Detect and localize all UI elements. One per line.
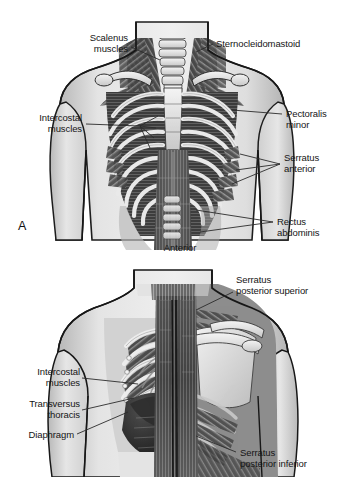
label-scalenus-muscles: Scalenus muscles bbox=[34, 32, 128, 54]
label-sternocleidomastoid: Sternocleidomastoid bbox=[216, 38, 344, 49]
label-intercostal-muscles-anterior: Intercostal muscles bbox=[4, 112, 82, 134]
panel-letter-a: A bbox=[18, 219, 26, 233]
label-serratus-posterior-superior: Serratus posterior superior bbox=[236, 274, 344, 296]
label-intercostal-muscles-posterior: Intercostal muscles bbox=[2, 366, 80, 388]
anatomy-figure: Scalenus muscles Sternocleidomastoid Int… bbox=[0, 0, 344, 477]
panel-a-artwork bbox=[50, 22, 294, 250]
label-serratus-posterior-inferior: Serratus posterior inferior bbox=[240, 447, 344, 469]
label-pectoralis-minor: Pectoralis minor bbox=[286, 108, 344, 130]
label-serratus-anterior: Serratus anterior bbox=[284, 152, 344, 174]
label-diaphragm: Diaphragm bbox=[0, 429, 74, 440]
label-transversus-thoracis: Transversus thoracis bbox=[0, 398, 80, 420]
label-rectus-abdominis: Rectus abdominis bbox=[277, 216, 341, 238]
caption-anterior: Anterior bbox=[140, 242, 220, 253]
panel-b-artwork bbox=[48, 270, 298, 477]
